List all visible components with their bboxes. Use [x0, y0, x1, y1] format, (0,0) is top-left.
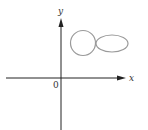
- origin-label: 0: [53, 80, 59, 90]
- y-axis-arrow-icon: [59, 18, 64, 27]
- y-axis-label: y: [57, 6, 64, 16]
- loop-ellipse: [96, 35, 128, 52]
- coordinate-diagram: x y 0: [0, 0, 148, 130]
- x-axis-label: x: [129, 73, 134, 83]
- x-axis-arrow-icon: [117, 76, 126, 81]
- loop-circle: [71, 31, 96, 56]
